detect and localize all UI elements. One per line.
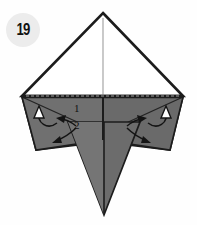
origami-diagram-canvas: 1 2 19 xyxy=(0,0,197,225)
step-number-badge: 19 xyxy=(6,13,40,47)
step-number-text: 19 xyxy=(17,22,30,38)
fold-label-2: 2 xyxy=(74,120,80,131)
fold-label-1: 1 xyxy=(74,103,80,114)
